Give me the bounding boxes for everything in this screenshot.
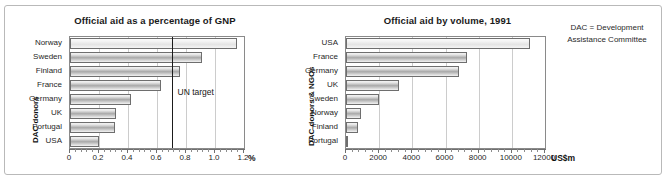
axis-minor-tick: [504, 149, 505, 152]
bar-row: [70, 122, 244, 133]
category-label: France: [37, 79, 62, 90]
axis-minor-tick: [418, 149, 419, 152]
bar-row: [70, 94, 244, 105]
bar-row: [70, 66, 244, 77]
bar: [346, 94, 379, 105]
axis-minor-tick: [391, 149, 392, 152]
bar-row: [70, 52, 244, 63]
category-label: Portugal: [308, 135, 338, 146]
axis-tick-label: 1.0: [208, 153, 219, 162]
axis-minor-tick: [431, 149, 432, 152]
un-target-line: [172, 37, 174, 148]
category-label: France: [313, 51, 338, 62]
axis-minor-tick: [451, 149, 452, 152]
axis-tick-label: 0.6: [150, 153, 161, 162]
axis-minor-tick: [438, 149, 439, 152]
axis-tick-label: 0.8: [179, 153, 190, 162]
axis-minor-tick: [86, 149, 87, 152]
axis-minor-tick: [405, 149, 406, 152]
category-label: Germany: [305, 65, 338, 76]
axis-minor-tick: [150, 149, 151, 152]
bar-row: [346, 80, 545, 91]
axis-minor-tick: [365, 149, 366, 152]
axis-minor-tick: [173, 149, 174, 152]
axis-minor-tick: [464, 149, 465, 152]
bar-row: [346, 136, 545, 147]
bar: [346, 66, 459, 77]
legend-note-line1: DAC = Development: [553, 22, 661, 34]
bar-row: [346, 122, 545, 133]
category-label: USA: [46, 135, 62, 146]
bar: [70, 80, 161, 91]
bar: [346, 108, 361, 119]
axis-minor-tick: [531, 149, 532, 152]
bar: [70, 38, 237, 49]
axis-minor-tick: [144, 149, 145, 152]
un-target-label: UN target: [178, 87, 214, 97]
x-axis-gnp: 00.20.40.60.81.01.2: [69, 149, 245, 150]
x-axis-volume: 020004000600080001000012000: [345, 149, 546, 150]
category-label: USA: [322, 37, 338, 48]
category-label: Finland: [312, 121, 338, 132]
axis-minor-tick: [358, 149, 359, 152]
axis-minor-tick: [139, 149, 140, 152]
axis-tick-label: 0.2: [92, 153, 103, 162]
category-label: UK: [51, 107, 62, 118]
axis-tick-label: 1.2: [237, 153, 248, 162]
axis-minor-tick: [75, 149, 76, 152]
category-labels-volume: USAFranceGermanyUKSwedenNorwayFinlandPor…: [301, 36, 342, 149]
axis-minor-tick: [191, 149, 192, 152]
bar-row: [346, 66, 545, 77]
axis-minor-tick: [458, 149, 459, 152]
plot-area-volume: [345, 36, 546, 149]
category-label: Portugal: [32, 121, 62, 132]
axis-minor-tick: [517, 149, 518, 152]
category-label: Norway: [35, 37, 62, 48]
axis-minor-tick: [133, 149, 134, 152]
axis-minor-tick: [484, 149, 485, 152]
bar: [70, 66, 180, 77]
x-axis-unit-gnp: %: [248, 153, 256, 163]
axis-minor-tick: [537, 149, 538, 152]
axis-tick-label: 0.4: [121, 153, 132, 162]
axis-minor-tick: [220, 149, 221, 152]
axis-minor-tick: [226, 149, 227, 152]
bar: [346, 52, 467, 63]
axis-minor-tick: [202, 149, 203, 152]
bar: [70, 122, 115, 133]
axis-minor-tick: [179, 149, 180, 152]
axis-minor-tick: [237, 149, 238, 152]
category-labels-gnp: NorwaySwedenFinlandFranceGermanyUKPortug…: [5, 36, 66, 149]
axis-minor-tick: [372, 149, 373, 152]
axis-minor-tick: [121, 149, 122, 152]
chart-panel-volume: Official aid by volume, 1991 DAC donors …: [301, 6, 663, 174]
axis-tick-label: 8000: [469, 153, 487, 162]
axis-minor-tick: [115, 149, 116, 152]
bar: [346, 122, 358, 133]
axis-minor-tick: [208, 149, 209, 152]
axis-tick-label: 2000: [369, 153, 387, 162]
bar: [70, 108, 116, 119]
bar-row: [346, 108, 545, 119]
axis-minor-tick: [398, 149, 399, 152]
bar-row: [70, 108, 244, 119]
bar: [70, 136, 99, 147]
axis-minor-tick: [197, 149, 198, 152]
axis-minor-tick: [81, 149, 82, 152]
category-label: Norway: [311, 107, 338, 118]
axis-tick-label: 10000: [500, 153, 522, 162]
bar: [70, 52, 202, 63]
axis-tick-label: 4000: [402, 153, 420, 162]
bar-row: [70, 136, 244, 147]
axis-minor-tick: [162, 149, 163, 152]
axis-minor-tick: [104, 149, 105, 152]
axis-minor-tick: [92, 149, 93, 152]
chart-title-gnp: Official aid as a percentage of GNP: [5, 15, 305, 26]
axis-tick-label: 0: [343, 153, 347, 162]
bar-row: [346, 38, 545, 49]
gridline: [244, 37, 245, 148]
legend-note-line2: Assistance Committee: [553, 34, 661, 46]
bar: [346, 136, 348, 147]
figure-frame: Official aid as a percentage of GNP DAC …: [4, 5, 662, 175]
bar: [70, 94, 131, 105]
